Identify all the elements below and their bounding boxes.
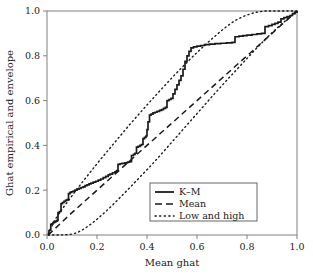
x-tick-label: 0.6 (189, 241, 204, 252)
y-tick-label: 0.4 (25, 140, 40, 151)
y-tick-label: 0.2 (25, 185, 40, 196)
y-axis-ticks: 0.00.20.40.60.81.0 (25, 5, 47, 240)
y-tick-label: 1.0 (25, 5, 40, 16)
chart-canvas: 0.00.20.40.60.81.0 0.00.20.40.60.81.0 Me… (0, 0, 313, 274)
x-tick-label: 0.8 (239, 241, 254, 252)
legend-label-low-and-high: Low and high (179, 210, 244, 221)
figure-container: 0.00.20.40.60.81.0 0.00.20.40.60.81.0 Me… (0, 0, 313, 274)
x-tick-label: 0.0 (39, 241, 54, 252)
y-tick-label: 0.6 (25, 95, 40, 106)
chart-legend: K–MMeanLow and high (150, 183, 257, 221)
y-axis-title: Ghat empirical and envelope (4, 50, 15, 196)
x-tick-label: 0.4 (139, 241, 154, 252)
x-axis-title: Mean ghat (145, 257, 200, 268)
x-axis-ticks: 0.00.20.40.60.81.0 (39, 235, 304, 252)
y-tick-label: 0.0 (25, 229, 40, 240)
y-tick-label: 0.8 (25, 50, 40, 61)
x-tick-label: 1.0 (289, 241, 304, 252)
x-tick-label: 0.2 (89, 241, 104, 252)
legend-label-k-m: K–M (179, 186, 201, 197)
legend-label-mean: Mean (179, 198, 206, 209)
